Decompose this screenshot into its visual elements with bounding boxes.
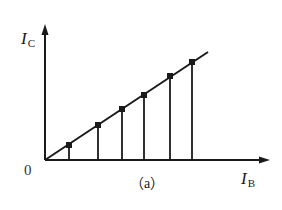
square-marker-icon [119,106,125,112]
figure-caption: （a） [130,177,164,191]
y-axis-subscript: C [28,37,35,49]
x-axis-symbol: I [241,169,247,188]
y-axis-label: IC [21,30,35,49]
origin-label: 0 [24,163,32,178]
square-marker-icon [66,142,72,148]
square-marker-icon [167,73,173,79]
x-axis-subscript: B [248,177,255,189]
x-axis-label: IB [241,170,255,189]
square-marker-icon [189,59,195,65]
square-marker-icon [95,122,101,128]
y-axis-arrow-icon [42,24,49,35]
vertical-drop-lines [69,62,192,160]
square-marker-icon [141,92,147,98]
x-axis-arrow-icon [259,157,270,164]
y-axis-symbol: I [21,29,27,48]
axes [42,24,271,164]
